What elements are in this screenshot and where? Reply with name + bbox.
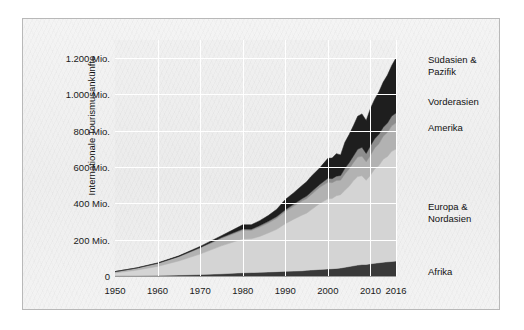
y-axis-ticks: 1.200 Mio.1.000 Mio.800 Mio.600 Mio.400 … [18,0,110,330]
x-tick-label: 1950 [104,285,125,296]
x-tick-label: 2000 [317,285,338,296]
gridline-vertical [328,40,329,276]
x-tick-label: 1980 [232,285,253,296]
chart-screenshot: Internationale Tourismusankünfte 1.200 M… [0,0,524,330]
series-label-vorderasien: Vorderasien [428,96,479,108]
series-label-amerika: Amerika [428,122,463,134]
x-tick-label: 2010 [360,285,381,296]
gridline-vertical [243,40,244,276]
y-tick-label: 200 Mio. [74,234,110,245]
series-label-line-1: Europa & [428,201,471,213]
y-tick-label: 400 Mio. [74,198,110,209]
x-tick-label: 1990 [275,285,296,296]
series-label-line-2: Nordasien [428,213,471,225]
y-tick-label: 600 Mio. [74,162,110,173]
series-label-suedasien-pazifik: Südasien & Pazifik [428,54,477,77]
series-label-europa-nordasien: Europa & Nordasien [428,201,471,224]
series-label-afrika: Afrika [428,266,452,278]
gridline-vertical [396,40,397,276]
gridline-vertical [158,40,159,276]
y-tick-label: 800 Mio. [74,125,110,136]
y-tick-label: 1.000 Mio. [66,89,110,100]
gridlines [115,40,396,276]
series-label-line-1: Südasien & [428,54,477,66]
x-tick-label: 1960 [147,285,168,296]
gridline-vertical [285,40,286,276]
series-label-line-2: Pazifik [428,66,477,78]
gridline-vertical [370,40,371,276]
plot-area [115,40,396,276]
y-tick-label: 1.200 Mio. [66,53,110,64]
gridline-vertical [200,40,201,276]
y-tick-label: 0 [105,271,110,282]
x-tick-label: 2016 [385,285,406,296]
x-tick-label: 1970 [190,285,211,296]
x-axis-line [115,276,396,277]
